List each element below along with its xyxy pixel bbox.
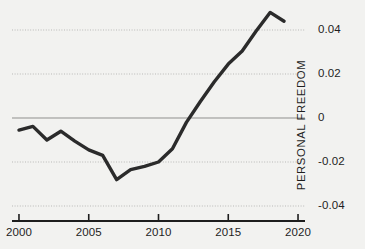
x-tick-label: 2000 bbox=[6, 227, 32, 239]
x-tick-label: 2005 bbox=[76, 227, 102, 239]
x-axis bbox=[12, 214, 305, 221]
y-tick-label: -0.04 bbox=[318, 200, 345, 212]
data-series-group bbox=[19, 12, 284, 179]
y-axis-title: PERSONAL FREEDOM bbox=[295, 59, 307, 189]
x-tick-label: 2015 bbox=[215, 227, 241, 239]
line-chart-plot bbox=[0, 0, 365, 249]
y-tick-label: -0.02 bbox=[318, 156, 345, 168]
y-tick-label: 0 bbox=[318, 112, 325, 124]
x-tick-label: 2010 bbox=[146, 227, 172, 239]
chart-container: 0.040.020-0.02-0.04 20002005201020152020… bbox=[0, 0, 365, 249]
x-tick-label: 2020 bbox=[285, 227, 311, 239]
y-tick-label: 0.02 bbox=[318, 68, 341, 80]
y-tick-label: 0.04 bbox=[318, 24, 341, 36]
